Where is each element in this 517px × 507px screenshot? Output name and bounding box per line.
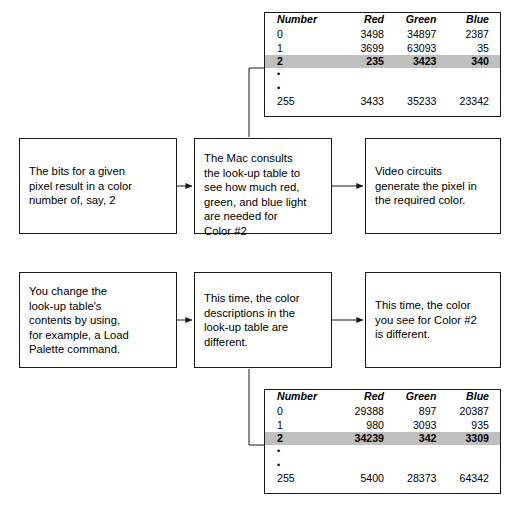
lookup-table-bottom-grid: Number Red Green Blue 0 29388 897 20387 … [265, 390, 500, 485]
column-header-red: Red [343, 390, 395, 404]
lookup-table-top-grid: Number Red Green Blue 0 3498 34897 2387 … [265, 13, 500, 108]
cell-red: 34239 [343, 432, 395, 445]
cell-red: 3498 [343, 27, 395, 41]
cell-number: 1 [265, 42, 343, 55]
table-row: 1 3699 63093 35 [265, 42, 500, 55]
cell-number: • [265, 68, 343, 81]
table-row: 1 980 3093 935 [265, 419, 500, 432]
cell-number: 255 [265, 472, 343, 485]
cell-number: 2 [265, 55, 343, 68]
lookup-table-bottom: Number Red Green Blue 0 29388 897 20387 … [264, 389, 501, 494]
process-box-descriptions-differ-text: This time, the color descriptions in the… [204, 291, 325, 349]
cell-red: 5400 [343, 472, 395, 485]
process-box-change-table: You change the look-up table's contents … [19, 272, 177, 368]
column-header-blue: Blue [447, 13, 500, 27]
cell-green: 342 [395, 432, 447, 445]
diagram-canvas: Number Red Green Blue 0 3498 34897 2387 … [0, 0, 517, 507]
cell-blue: 20387 [447, 404, 500, 418]
cell-green: 35233 [395, 95, 447, 108]
column-header-green: Green [395, 390, 447, 404]
cell-number: 0 [265, 404, 343, 418]
cell-blue: 35 [447, 42, 500, 55]
process-box-mac-consults-text: The Mac consults the look-up table to se… [204, 151, 325, 239]
cell-red: 980 [343, 419, 395, 432]
table-row-highlighted: 2 235 3423 340 [265, 55, 500, 68]
cell-red: 3433 [343, 95, 395, 108]
cell-number: 2 [265, 432, 343, 445]
cell-number: • [265, 445, 343, 458]
process-box-color-differs-text: This time, the color you see for Color #… [375, 298, 494, 342]
cell-green: 3423 [395, 55, 447, 68]
table-row-ellipsis: • [265, 458, 500, 471]
cell-blue: 2387 [447, 27, 500, 41]
cell-red: 235 [343, 55, 395, 68]
table-row: 255 3433 35233 23342 [265, 95, 500, 108]
column-header-number: Number [265, 390, 343, 404]
cell-number: • [265, 81, 343, 94]
cell-number: 255 [265, 95, 343, 108]
process-box-descriptions-differ: This time, the color descriptions in the… [194, 272, 332, 368]
cell-blue: 23342 [447, 95, 500, 108]
cell-blue: 3309 [447, 432, 500, 445]
table-row: 0 29388 897 20387 [265, 404, 500, 418]
table-row-ellipsis: • [265, 68, 500, 81]
column-header-number: Number [265, 13, 343, 27]
process-box-pixel-bits-text: The bits for a given pixel result in a c… [29, 164, 170, 208]
cell-number: 1 [265, 419, 343, 432]
table-header-row: Number Red Green Blue [265, 390, 500, 404]
process-box-color-differs: This time, the color you see for Color #… [365, 272, 501, 368]
cell-blue: 340 [447, 55, 500, 68]
table-header-row: Number Red Green Blue [265, 13, 500, 27]
cell-number: • [265, 458, 343, 471]
table-row-highlighted: 2 34239 342 3309 [265, 432, 500, 445]
column-header-blue: Blue [447, 390, 500, 404]
cell-green: 34897 [395, 27, 447, 41]
cell-red: 3699 [343, 42, 395, 55]
column-header-green: Green [395, 13, 447, 27]
connector-top-table-to-consults [249, 68, 264, 137]
connector-thistime-to-bottom-table [249, 369, 264, 445]
process-box-change-table-text: You change the look-up table's contents … [29, 284, 170, 357]
cell-red: 29388 [343, 404, 395, 418]
process-box-video-circuits: Video circuits generate the pixel in the… [365, 138, 501, 234]
cell-green: 63093 [395, 42, 447, 55]
table-row: 255 5400 28373 64342 [265, 472, 500, 485]
cell-green: 28373 [395, 472, 447, 485]
process-box-mac-consults: The Mac consults the look-up table to se… [194, 138, 332, 234]
cell-blue: 935 [447, 419, 500, 432]
process-box-pixel-bits: The bits for a given pixel result in a c… [19, 138, 177, 234]
cell-number: 0 [265, 27, 343, 41]
cell-green: 897 [395, 404, 447, 418]
table-row: 0 3498 34897 2387 [265, 27, 500, 41]
lookup-table-top: Number Red Green Blue 0 3498 34897 2387 … [264, 12, 501, 117]
process-box-video-circuits-text: Video circuits generate the pixel in the… [375, 164, 494, 208]
cell-green: 3093 [395, 419, 447, 432]
cell-blue: 64342 [447, 472, 500, 485]
table-row-ellipsis: • [265, 81, 500, 94]
column-header-red: Red [343, 13, 395, 27]
table-row-ellipsis: • [265, 445, 500, 458]
